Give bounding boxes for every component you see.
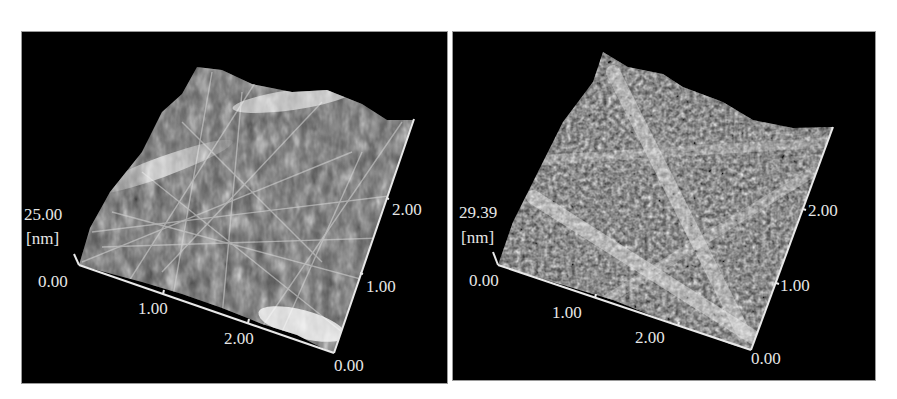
y-tick-1-left: 1.00 — [366, 278, 396, 295]
origin-label-left: 0.00 — [38, 273, 68, 290]
afm-panel-right: 29.39 [nm] 0.00 1.00 2.00 0.00 1.00 2.00 — [452, 31, 876, 381]
afm-panel-left: 25.00 [nm] 0.00 1.00 2.00 0.00 1.00 2.00 — [21, 31, 448, 384]
y-tick-1-right: 1.00 — [780, 277, 810, 294]
x-tick-1-right: 1.00 — [552, 304, 582, 321]
z-max-label-left: 25.00 — [24, 206, 62, 223]
z-max-label-right: 29.39 — [459, 204, 497, 221]
corner-label-left: 0.00 — [334, 357, 364, 374]
corner-label-right: 0.00 — [751, 350, 781, 367]
z-unit-label-left: [nm] — [26, 230, 59, 247]
y-tick-2-left: 2.00 — [392, 201, 422, 218]
x-tick-1-left: 1.00 — [138, 300, 168, 317]
z-unit-label-right: [nm] — [461, 229, 494, 246]
x-tick-2-left: 2.00 — [224, 330, 254, 347]
origin-label-right: 0.00 — [469, 272, 499, 289]
x-tick-2-right: 2.00 — [635, 329, 665, 346]
y-tick-2-right: 2.00 — [808, 202, 838, 219]
